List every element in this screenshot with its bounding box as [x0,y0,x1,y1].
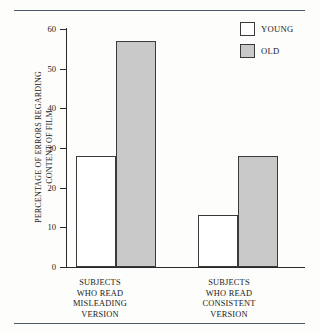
cat1-line2: WHO READ [46,289,154,300]
bar-young-misleading [76,156,116,267]
bottom-rule [14,323,305,324]
legend-label-young: YOUNG [261,25,294,34]
legend-swatch-young-icon [240,22,255,36]
bar-young-consistent [198,215,238,267]
y-tick-label-60: 60 [16,25,56,34]
x-axis-line [66,267,305,268]
figure-container: PERCENTAGE OF ERRORS REGARDING CONTENT O… [0,0,319,334]
bar-old-consistent [238,156,278,267]
legend-item-young: YOUNG [240,22,294,36]
x-category-label-misleading: SUBJECTS WHO READ MISLEADING VERSION [46,278,154,320]
cat2-line2: WHO READ [175,289,283,300]
y-tick-label-10: 10 [16,223,56,232]
x-category-label-consistent: SUBJECTS WHO READ CONSISTENT VERSION [175,278,283,320]
legend-swatch-old-icon [240,44,255,58]
y-tick-label-40: 40 [16,104,56,113]
cat2-line3: CONSISTENT [175,299,283,310]
cat1-line4: VERSION [46,310,154,321]
y-axis-label-container: PERCENTAGE OF ERRORS REGARDING CONTENT O… [0,0,40,280]
y-tick-label-20: 20 [16,184,56,193]
cat2-line1: SUBJECTS [175,278,283,289]
cat1-line1: SUBJECTS [46,278,154,289]
cat1-line3: MISLEADING [46,299,154,310]
legend-label-old: OLD [261,47,280,56]
y-tick-0 [60,267,66,268]
y-tick-label-50: 50 [16,65,56,74]
cat2-line4: VERSION [175,310,283,321]
y-tick-label-30: 30 [16,144,56,153]
bar-old-misleading [116,41,156,267]
top-rule [14,10,305,11]
y-tick-label-0: 0 [16,263,56,272]
legend: YOUNG OLD [240,22,294,66]
legend-item-old: OLD [240,44,294,58]
